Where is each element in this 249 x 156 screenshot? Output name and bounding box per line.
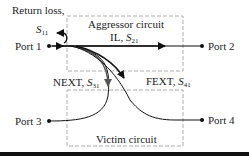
port1-dot	[47, 44, 51, 48]
return-loss-arrow	[57, 33, 67, 43]
il-label: IL, S21	[110, 31, 139, 45]
fext-arrow	[76, 46, 124, 78]
next-label: NEXT, S31	[53, 76, 100, 90]
crosstalk-diagram: Return loss, S11 Aggressor circuit IL, S…	[0, 0, 249, 156]
port2-label: Port 2	[208, 40, 235, 52]
s11-label: S11	[36, 23, 49, 37]
return-loss-label: Return loss,	[12, 4, 65, 16]
port3-dot	[47, 119, 51, 123]
victim-title: Victim circuit	[96, 133, 157, 145]
port2-dot	[200, 44, 204, 48]
port1-label: Port 1	[15, 40, 42, 52]
aggressor-title: Aggressor circuit	[88, 18, 164, 30]
bottom-border-bar	[0, 152, 249, 156]
port3-label: Port 3	[15, 115, 42, 127]
port4-dot	[200, 118, 204, 122]
port4-label: Port 4	[208, 114, 235, 126]
fext-label: FEXT, S41	[146, 75, 191, 89]
